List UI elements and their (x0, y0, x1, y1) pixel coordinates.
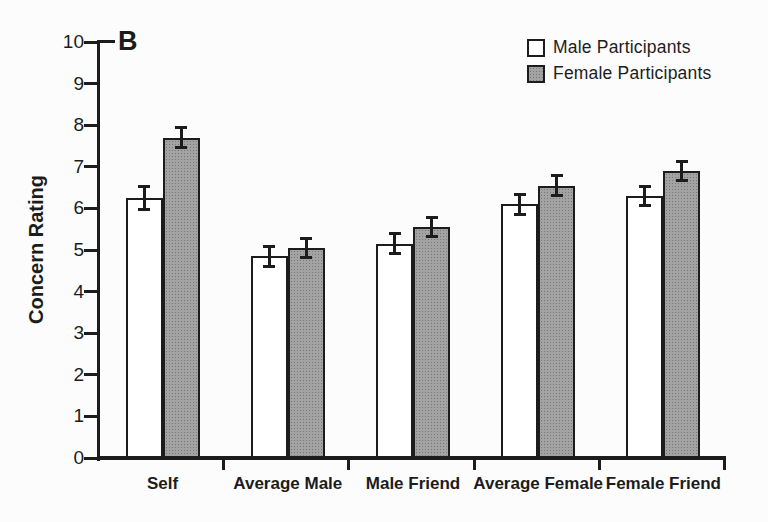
error-bar-cap (389, 252, 401, 255)
y-tick-label: 7 (38, 157, 84, 177)
bar-female-female-friend (663, 171, 700, 460)
error-bar-cap (551, 174, 563, 177)
legend-swatch-white-icon (527, 39, 545, 57)
y-tick-label: 1 (38, 406, 84, 426)
y-tick-label: 5 (38, 240, 84, 260)
error-bar-cap (639, 185, 651, 188)
x-boundary-tick (222, 456, 225, 470)
y-tick-label: 10 (38, 32, 84, 52)
bar-male-average-male (251, 256, 288, 460)
legend: Male Participants Female Participants (527, 37, 711, 89)
x-boundary-tick (347, 456, 350, 470)
y-tick (84, 207, 97, 210)
error-bar-cap (175, 146, 187, 149)
y-tick (84, 41, 97, 44)
bar-male-female-friend (626, 196, 663, 460)
x-axis-line (97, 456, 726, 460)
error-bar (426, 216, 438, 239)
error-bar-cap (138, 208, 150, 211)
y-tick (84, 249, 97, 252)
error-bar-cap (676, 179, 688, 182)
legend-item-male-participants: Male Participants (527, 37, 711, 58)
error-bar (514, 193, 526, 216)
bar-female-average-male (288, 248, 325, 460)
y-tick-label: 3 (38, 323, 84, 343)
error-bar (676, 160, 688, 183)
y-tick (84, 165, 97, 168)
y-tick (84, 290, 97, 293)
error-bar-cap (514, 193, 526, 196)
error-bar (639, 185, 651, 208)
legend-label: Male Participants (553, 37, 691, 58)
x-boundary-tick (598, 456, 601, 470)
y-tick (84, 373, 97, 376)
y-tick (84, 82, 97, 85)
y-axis-line (97, 40, 100, 461)
y-tick (84, 124, 97, 127)
legend-item-female-participants: Female Participants (527, 63, 711, 84)
error-bar-vline (143, 185, 146, 212)
y-tick-label: 6 (38, 198, 84, 218)
error-bar-cap (138, 185, 150, 188)
bar-male-self (126, 198, 163, 460)
y-tick-label: 0 (38, 448, 84, 468)
y-tick (84, 457, 97, 460)
legend-swatch-gray-icon (527, 65, 545, 83)
error-bar (551, 174, 563, 197)
error-bar (175, 126, 187, 149)
bar-male-average-female (501, 204, 538, 460)
x-category-label: Female Friend (588, 474, 738, 494)
error-bar-cap (639, 204, 651, 207)
y-tick (84, 332, 97, 335)
error-bar (389, 232, 401, 255)
error-bar (300, 237, 312, 260)
panel-label: B (118, 26, 138, 57)
error-bar (138, 185, 150, 212)
y-axis-top-cap (100, 40, 115, 43)
error-bar-cap (551, 194, 563, 197)
error-bar-cap (426, 235, 438, 238)
error-bar-cap (300, 237, 312, 240)
bar-female-average-female (538, 186, 575, 460)
error-bar-cap (175, 126, 187, 129)
bar-female-male-friend (413, 227, 450, 460)
legend-label: Female Participants (553, 63, 711, 84)
bar-chart-figure: B Concern Rating Male Participants Femal… (0, 0, 768, 522)
x-boundary-tick (473, 456, 476, 470)
x-axis-end-cap (723, 456, 726, 470)
error-bar-cap (300, 256, 312, 259)
error-bar-cap (426, 216, 438, 219)
error-bar (263, 245, 275, 268)
bar-female-self (163, 138, 200, 460)
error-bar-cap (514, 213, 526, 216)
bar-male-male-friend (376, 244, 413, 460)
y-tick-label: 4 (38, 282, 84, 302)
error-bar-cap (389, 232, 401, 235)
y-tick-label: 8 (38, 115, 84, 135)
y-tick (84, 415, 97, 418)
error-bar-cap (676, 160, 688, 163)
y-tick-label: 9 (38, 74, 84, 94)
error-bar-cap (263, 265, 275, 268)
error-bar-cap (263, 245, 275, 248)
y-tick-label: 2 (38, 365, 84, 385)
